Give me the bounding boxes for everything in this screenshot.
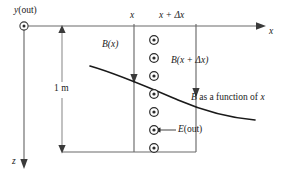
field-dot-out-of-page-icon bbox=[150, 54, 159, 63]
tick-label-x-plus-delta-x: x + Δx bbox=[159, 11, 184, 21]
dimension-label-1m: 1 m bbox=[53, 84, 70, 94]
field-dot-column bbox=[150, 36, 159, 153]
x-axis-line bbox=[24, 22, 266, 29]
z-axis-arrowhead bbox=[20, 159, 27, 169]
slab-left-boundary bbox=[130, 24, 137, 152]
b-curve-label: B as a function of x bbox=[191, 93, 265, 103]
x-axis-arrowhead bbox=[256, 22, 266, 29]
field-dot-out-of-page-icon bbox=[150, 36, 159, 45]
field-dot-out-of-page-icon bbox=[150, 108, 159, 117]
x-axis-label: x bbox=[269, 27, 273, 37]
tick-label-x: x bbox=[130, 11, 134, 21]
b-curve-label-variable: x bbox=[260, 92, 264, 102]
origin-out-of-page-icon bbox=[20, 22, 28, 30]
y-axis-label: y(out) bbox=[14, 6, 37, 16]
z-axis-label: z bbox=[12, 157, 16, 167]
e-field-label: E(out) bbox=[178, 125, 202, 135]
field-dot-out-of-page-icon bbox=[150, 144, 159, 153]
field-diagram: y(out) x z x x + Δx 1 m B(x) B(x + Δx) B… bbox=[0, 0, 294, 185]
b-curve-label-text: as a function of bbox=[197, 92, 261, 102]
b-right-label: B(x + Δx) bbox=[171, 56, 208, 66]
y-axis-qualifier: (out) bbox=[18, 5, 36, 15]
z-axis-line bbox=[20, 26, 27, 169]
field-dot-out-of-page-icon bbox=[150, 90, 159, 99]
e-field-qualifier: (out) bbox=[184, 124, 202, 134]
field-dot-out-of-page-icon bbox=[150, 126, 159, 135]
b-left-label: B(x) bbox=[102, 40, 118, 50]
field-dot-out-of-page-icon bbox=[150, 72, 159, 81]
